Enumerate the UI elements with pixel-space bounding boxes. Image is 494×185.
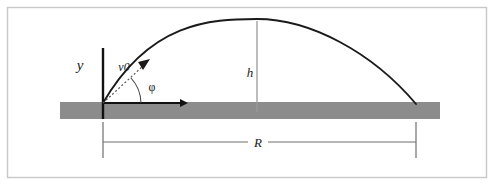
figure-canvas: y v0 φ h R: [0, 0, 494, 185]
ground-surface-bar: [60, 102, 440, 119]
projectile-motion-figure: y v0 φ h R: [0, 0, 494, 185]
figure-frame-border: [8, 8, 487, 178]
launch-angle-arc: [131, 78, 141, 103]
launch-angle-label: φ: [149, 80, 156, 94]
range-label: R: [253, 135, 262, 150]
initial-velocity-label: v0: [118, 60, 129, 74]
max-height-label: h: [247, 65, 254, 80]
y-axis-label: y: [75, 57, 84, 73]
